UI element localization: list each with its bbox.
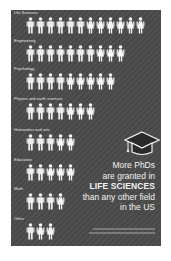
person-male-icon: [26, 164, 35, 181]
figure-group: [26, 17, 145, 34]
row-label: Education: [14, 157, 32, 162]
person-male-icon: [46, 134, 55, 151]
person-female-icon: [56, 134, 65, 151]
row-label: Humanities and arts: [14, 127, 50, 132]
message-line-5: in the US: [83, 202, 155, 213]
person-female-icon: [96, 73, 105, 90]
message-line-emphasis: LIFE SCIENCES: [83, 181, 155, 192]
person-male-icon: [26, 17, 35, 34]
person-female-icon: [136, 17, 145, 34]
message-line-1: More PhDs: [83, 160, 155, 171]
person-male-icon: [86, 45, 95, 62]
person-female-icon: [66, 73, 75, 90]
person-male-icon: [36, 134, 45, 151]
person-female-icon: [86, 103, 95, 120]
person-male-icon: [26, 45, 35, 62]
person-female-icon: [106, 73, 115, 90]
person-male-icon: [36, 164, 45, 181]
person-female-icon: [46, 223, 55, 240]
row-label: Physics and earth sciences: [14, 96, 62, 101]
message-line-4: than any other field: [83, 192, 155, 203]
person-female-icon: [116, 45, 125, 62]
row-label: Life Sciences: [14, 10, 38, 15]
row-label: Other: [14, 216, 24, 221]
person-female-icon: [76, 73, 85, 90]
person-female-icon: [36, 223, 45, 240]
person-male-icon: [56, 17, 65, 34]
fine-print-line: [93, 228, 155, 230]
person-male-icon: [46, 193, 55, 210]
person-male-icon: [46, 73, 55, 90]
person-male-icon: [36, 45, 45, 62]
person-male-icon: [56, 45, 65, 62]
person-male-icon: [26, 103, 35, 120]
row-label: Engineering: [14, 38, 35, 43]
figure-group: [26, 193, 65, 210]
person-female-icon: [66, 103, 75, 120]
person-male-icon: [46, 17, 55, 34]
person-female-icon: [86, 73, 95, 90]
person-male-icon: [36, 17, 45, 34]
person-female-icon: [76, 103, 85, 120]
person-male-icon: [36, 73, 45, 90]
infographic-panel: Life SciencesEngineeringPsychologyPhysic…: [11, 10, 161, 246]
graduation-cap-icon: [124, 130, 160, 158]
person-female-icon: [96, 45, 105, 62]
figure-group: [26, 73, 115, 90]
person-male-icon: [26, 134, 35, 151]
person-male-icon: [26, 223, 35, 240]
fine-print-line: [89, 232, 155, 234]
figure-group: [26, 134, 75, 151]
person-female-icon: [96, 17, 105, 34]
person-female-icon: [66, 134, 75, 151]
figure-group: [26, 103, 95, 120]
headline-message: More PhDs are granted in LIFE SCIENCES t…: [83, 160, 155, 213]
person-male-icon: [46, 45, 55, 62]
figure-group: [26, 45, 125, 62]
person-male-icon: [56, 73, 65, 90]
source-fine-print: [85, 227, 155, 237]
person-male-icon: [36, 103, 45, 120]
person-male-icon: [66, 45, 75, 62]
person-male-icon: [26, 193, 35, 210]
person-male-icon: [36, 193, 45, 210]
person-female-icon: [106, 45, 115, 62]
person-female-icon: [106, 17, 115, 34]
person-female-icon: [66, 164, 75, 181]
person-female-icon: [56, 164, 65, 181]
person-male-icon: [76, 45, 85, 62]
row-label: Math: [14, 186, 23, 191]
person-female-icon: [116, 17, 125, 34]
person-female-icon: [56, 193, 65, 210]
figure-group: [26, 164, 75, 181]
person-female-icon: [126, 17, 135, 34]
person-female-icon: [86, 17, 95, 34]
person-male-icon: [56, 103, 65, 120]
person-male-icon: [66, 17, 75, 34]
person-female-icon: [46, 164, 55, 181]
message-line-2: are granted in: [83, 171, 155, 182]
person-male-icon: [46, 103, 55, 120]
row-label: Psychology: [14, 66, 34, 71]
person-male-icon: [76, 17, 85, 34]
person-male-icon: [26, 73, 35, 90]
figure-group: [26, 223, 55, 240]
